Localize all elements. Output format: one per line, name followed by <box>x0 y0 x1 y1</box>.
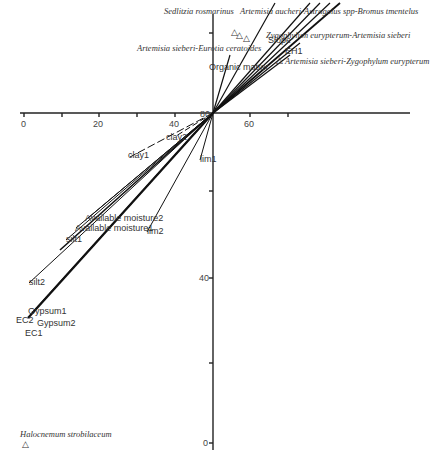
species-marker-triangle: △ <box>276 56 283 65</box>
species-label-sieberi-eurotia: Artemisia sieberi-Eurotia ceratoides <box>137 44 261 53</box>
env-label-ec2: EC2 <box>16 316 34 325</box>
y-axis <box>209 14 213 450</box>
species-marker-triangle: △ <box>22 440 29 449</box>
env-label-silt1: silt1 <box>66 235 82 244</box>
env-label-clay1: clay1 <box>128 151 149 160</box>
env-label-gypsum1: Gypsum1 <box>28 307 67 316</box>
species-label-halocnemum: Halocnemum strobilaceum <box>20 430 112 439</box>
env-label-slope: Slope <box>268 36 291 45</box>
y-tick-40: 40 <box>199 274 209 283</box>
env-label-lim1: lim1 <box>200 155 217 164</box>
x-tick-60: 60 <box>244 120 254 129</box>
env-label-eh1: EH1 <box>285 47 303 56</box>
x-tick-0: 0 <box>21 120 26 129</box>
species-label-aucheri: Artemisia aucheri-Astragalus spp-Bromus … <box>240 7 418 16</box>
y-tick-0: 0 <box>203 439 208 448</box>
y-tick-80: 80 <box>200 110 210 119</box>
species-label-sedlitzia: Sedlitzia rosmarinus <box>164 7 234 16</box>
species-marker-triangle: △ <box>243 34 250 43</box>
env-label-clay2: clay2 <box>166 133 187 142</box>
x-tick-20: 20 <box>93 120 103 129</box>
env-label-organic-matter: Organic matter <box>209 63 269 72</box>
species-marker-triangle: △ <box>236 31 243 40</box>
env-label-gypsum2: Gypsum2 <box>37 319 76 328</box>
x-axis <box>20 113 410 117</box>
env-label-silt2: silt2 <box>29 278 45 287</box>
env-label-available-moisture2: Available moisture2 <box>85 214 163 223</box>
x-tick-40: 40 <box>169 120 179 129</box>
env-label-available-moisture1: Available moisture1 <box>75 224 153 233</box>
env-label-ec1: EC1 <box>25 329 43 338</box>
species-label-sieberi-zygo: Artemisia sieberi-Zygophylum eurypterum <box>285 57 429 66</box>
